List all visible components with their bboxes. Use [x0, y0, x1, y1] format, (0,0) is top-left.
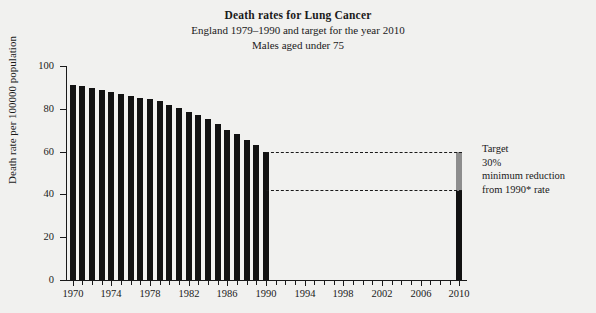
- bar: [244, 140, 250, 280]
- x-tick-minor: [198, 281, 199, 285]
- x-tick: [189, 281, 190, 286]
- x-tick: [111, 281, 112, 286]
- target-bar: [456, 152, 462, 280]
- x-tick-minor: [256, 281, 257, 285]
- y-axis-title: Death rate per 100000 population: [6, 0, 18, 240]
- bar: [263, 152, 269, 280]
- x-tick: [459, 281, 460, 286]
- annotation-line-1: Target: [482, 142, 594, 156]
- annotation-line-2: 30%: [482, 156, 594, 170]
- x-tick: [305, 281, 306, 286]
- y-tick-label: 40: [14, 189, 54, 199]
- bar: [89, 88, 95, 280]
- x-tick-label: 1994: [285, 288, 325, 299]
- x-tick-minor: [411, 281, 412, 285]
- x-tick-minor: [237, 281, 238, 285]
- x-tick-minor: [276, 281, 277, 285]
- x-tick-minor: [247, 281, 248, 285]
- chart-subtitle: England 1979–1990 and target for the yea…: [0, 23, 596, 38]
- x-tick: [343, 281, 344, 286]
- x-tick-minor: [92, 281, 93, 285]
- x-tick-label: 1982: [169, 288, 209, 299]
- x-tick-minor: [169, 281, 170, 285]
- bar: [253, 145, 259, 280]
- x-tick-minor: [140, 281, 141, 285]
- x-tick-minor: [208, 281, 209, 285]
- bar: [157, 101, 163, 280]
- y-tick-label: 80: [14, 104, 54, 114]
- x-tick-minor: [285, 281, 286, 285]
- x-tick: [227, 281, 228, 286]
- y-tick-label: 60: [14, 147, 54, 157]
- x-tick: [266, 281, 267, 286]
- x-tick-minor: [121, 281, 122, 285]
- chart-title: Death rates for Lung Cancer: [0, 8, 596, 23]
- x-tick-minor: [401, 281, 402, 285]
- bar: [224, 130, 230, 280]
- x-tick-minor: [218, 281, 219, 285]
- x-tick-label: 1978: [130, 288, 170, 299]
- bar: [195, 115, 201, 280]
- bar: [176, 108, 182, 280]
- bar: [215, 124, 221, 280]
- x-tick-minor: [392, 281, 393, 285]
- x-tick-minor: [430, 281, 431, 285]
- x-tick-label: 1986: [207, 288, 247, 299]
- bar: [234, 134, 240, 280]
- x-tick-label: 2010: [439, 288, 479, 299]
- target-reference-line: [266, 190, 462, 191]
- chart-subtitle-2: Males aged under 75: [0, 38, 596, 53]
- x-tick-label: 1970: [53, 288, 93, 299]
- x-tick: [382, 281, 383, 286]
- bar: [166, 105, 172, 280]
- x-tick-minor: [82, 281, 83, 285]
- bar: [205, 119, 211, 280]
- x-tick-label: 1974: [91, 288, 131, 299]
- x-tick-minor: [314, 281, 315, 285]
- target-annotation: Target 30% minimum reduction from 1990* …: [482, 142, 594, 196]
- annotation-line-4: from 1990* rate: [482, 183, 594, 197]
- x-tick: [73, 281, 74, 286]
- x-tick-minor: [160, 281, 161, 285]
- x-tick-label: 2002: [362, 288, 402, 299]
- chart-figure: Death rates for Lung Cancer England 1979…: [0, 0, 596, 313]
- target-reference-line: [266, 152, 462, 153]
- y-tick-label: 20: [14, 232, 54, 242]
- y-tick-label: 100: [14, 61, 54, 71]
- bar: [147, 99, 153, 280]
- x-tick-label: 2006: [401, 288, 441, 299]
- x-tick-minor: [440, 281, 441, 285]
- x-tick: [150, 281, 151, 286]
- bar: [70, 85, 76, 280]
- x-tick-label: 1998: [323, 288, 363, 299]
- x-tick-minor: [353, 281, 354, 285]
- annotation-line-3: minimum reduction: [482, 169, 594, 183]
- x-tick-minor: [179, 281, 180, 285]
- plot-area: [66, 66, 466, 280]
- x-tick-minor: [372, 281, 373, 285]
- bar: [186, 112, 192, 280]
- target-reduction-segment: [456, 152, 462, 191]
- bar: [79, 86, 85, 280]
- bar: [118, 94, 124, 280]
- x-tick-minor: [295, 281, 296, 285]
- y-tick-label: 0: [14, 275, 54, 285]
- bar: [99, 90, 105, 280]
- x-tick-minor: [102, 281, 103, 285]
- x-tick-minor: [334, 281, 335, 285]
- bar: [137, 98, 143, 280]
- x-tick-minor: [363, 281, 364, 285]
- y-tick: [60, 280, 66, 281]
- chart-title-block: Death rates for Lung Cancer England 1979…: [0, 8, 596, 53]
- x-tick-minor: [131, 281, 132, 285]
- x-tick: [421, 281, 422, 286]
- x-tick-minor: [450, 281, 451, 285]
- x-tick-minor: [324, 281, 325, 285]
- x-tick-label: 1990: [246, 288, 286, 299]
- bar: [108, 92, 114, 280]
- bar: [128, 96, 134, 280]
